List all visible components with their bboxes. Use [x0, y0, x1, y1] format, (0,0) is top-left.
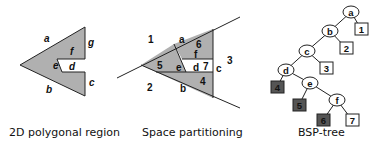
tree-leaf-1: 1: [355, 23, 368, 35]
svg-text:3: 3: [324, 63, 329, 74]
tree-node-d: d: [278, 64, 294, 76]
svg-text:b: b: [327, 26, 333, 37]
bsp-diagram: a b c d e f g 2D polygonal region 1 2 3 …: [0, 0, 383, 149]
line-label-b: b: [180, 83, 186, 94]
tree-leaf-3: 3: [320, 62, 333, 74]
line-label-c: c: [216, 63, 222, 74]
svg-text:1: 1: [359, 24, 365, 35]
svg-text:d: d: [283, 65, 289, 76]
partition-panel: 1 2 3 4 5 6 7 a b c d e f Space partitio…: [117, 17, 243, 139]
edge-label-c: c: [89, 77, 95, 88]
tree-node-a: a: [343, 6, 359, 18]
tree-leaf-7: 7: [346, 114, 359, 126]
edge-label-b: b: [46, 84, 52, 95]
svg-text:2: 2: [344, 43, 349, 54]
svg-text:7: 7: [350, 115, 355, 126]
tree-leaf-6: 6: [317, 114, 330, 126]
region-label-1: 1: [148, 34, 154, 45]
svg-text:6: 6: [321, 115, 326, 126]
tree-node-b: b: [322, 25, 338, 37]
svg-text:a: a: [348, 7, 354, 18]
tree-node-f: f: [329, 94, 345, 106]
region-label-3: 3: [227, 55, 233, 66]
line-b: [141, 65, 240, 108]
tree-leaf-5: 5: [293, 99, 306, 111]
tree-node-c: c: [299, 45, 315, 57]
bsp-tree-panel: a b c d e f 1 2: [271, 6, 368, 139]
tree-leaf-2: 2: [340, 42, 353, 54]
caption-bsp-tree: BSP-tree: [298, 126, 345, 139]
tree-node-e: e: [302, 77, 318, 89]
edge-label-g: g: [87, 37, 94, 48]
svg-text:4: 4: [275, 82, 281, 93]
region-label-5: 5: [157, 60, 163, 71]
tree-leaf-4: 4: [271, 81, 284, 93]
polygon-panel: a b c d e f g 2D polygonal region: [9, 27, 120, 139]
svg-text:c: c: [304, 46, 309, 57]
region-label-4: 4: [200, 76, 206, 87]
region-label-7: 7: [203, 61, 209, 72]
svg-text:5: 5: [297, 100, 303, 111]
region-label-2: 2: [147, 82, 153, 93]
line-label-e: e: [176, 62, 182, 73]
line-label-d: d: [193, 62, 199, 73]
caption-partition: Space partitioning: [142, 126, 243, 139]
edge-label-e: e: [53, 60, 59, 71]
edge-label-d: d: [69, 61, 76, 72]
svg-text:e: e: [307, 78, 312, 89]
caption-polygon: 2D polygonal region: [9, 126, 120, 139]
edge-label-a: a: [44, 33, 50, 44]
line-label-a: a: [179, 34, 185, 45]
